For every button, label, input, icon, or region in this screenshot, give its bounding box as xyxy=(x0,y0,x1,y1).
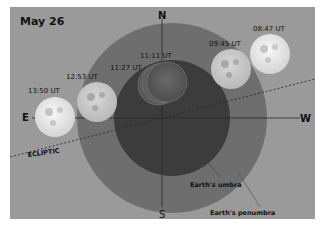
east-label: E xyxy=(22,112,29,123)
moon-1253 xyxy=(77,82,117,122)
moon-0847 xyxy=(250,34,290,74)
penumbra-label: Earth's penumbra xyxy=(210,209,275,217)
time-label-0945: 09:45 UT xyxy=(209,40,242,48)
time-label-0847: 08:47 UT xyxy=(253,25,286,33)
moon-0945 xyxy=(211,49,251,89)
west-label: W xyxy=(300,113,311,124)
ecliptic-label: ECLIPTIC xyxy=(27,147,60,159)
time-label-1127: 11:27 UT xyxy=(110,64,143,72)
penumbra-leader xyxy=(238,172,260,207)
moon-1350 xyxy=(35,97,75,137)
diagram-title: May 26 xyxy=(20,15,65,28)
time-label-1111: 11:11 UT xyxy=(140,52,173,60)
eclipse-diagram: May 26 N S E W ECLIPTIC 08:47 UT 09:45 U… xyxy=(10,7,315,219)
south-label: S xyxy=(159,209,165,219)
time-label-1253: 12:53 UT xyxy=(66,73,99,81)
umbra-label: Earth's umbra xyxy=(190,181,242,189)
north-label: N xyxy=(158,10,166,21)
time-label-1350: 13:50 UT xyxy=(28,87,61,95)
eclipse-diagram-panel: May 26 N S E W ECLIPTIC 08:47 UT 09:45 U… xyxy=(10,7,315,219)
